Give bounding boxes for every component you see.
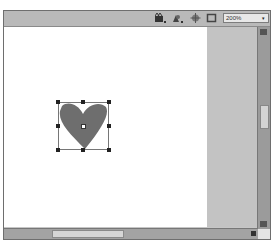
scroll-corner bbox=[258, 229, 270, 239]
zoom-dropdown[interactable]: 200% ▾ bbox=[223, 13, 269, 23]
vertical-scrollbar[interactable] bbox=[257, 27, 270, 229]
transform-handle[interactable] bbox=[107, 148, 111, 152]
edit-bar: 200% ▾ bbox=[4, 11, 270, 27]
horizontal-scroll-thumb[interactable] bbox=[52, 230, 124, 238]
transform-handle[interactable] bbox=[107, 124, 111, 128]
clip-stage-icon[interactable] bbox=[206, 13, 217, 23]
edit-symbols-icon[interactable] bbox=[172, 13, 183, 23]
stage[interactable] bbox=[4, 27, 207, 227]
center-stage-icon[interactable] bbox=[190, 13, 201, 23]
transform-point[interactable] bbox=[81, 124, 86, 129]
transform-handle[interactable] bbox=[107, 100, 111, 104]
transform-handle[interactable] bbox=[56, 100, 60, 104]
scroll-down-button[interactable] bbox=[260, 221, 267, 227]
transform-handle[interactable] bbox=[56, 124, 60, 128]
horizontal-scrollbar[interactable] bbox=[4, 228, 258, 239]
document-window: 200% ▾ bbox=[3, 10, 271, 240]
chevron-down-icon[interactable]: ▾ bbox=[260, 15, 267, 21]
transform-handle[interactable] bbox=[81, 148, 85, 152]
transform-handle[interactable] bbox=[81, 100, 85, 104]
heart-shape[interactable] bbox=[58, 102, 109, 150]
scroll-up-button[interactable] bbox=[260, 29, 267, 35]
zoom-value: 200% bbox=[226, 15, 241, 21]
scroll-right-button[interactable] bbox=[251, 231, 256, 236]
pasteboard[interactable] bbox=[4, 27, 258, 227]
transform-handle[interactable] bbox=[56, 148, 60, 152]
edit-scene-icon[interactable] bbox=[155, 13, 166, 23]
vertical-scroll-thumb[interactable] bbox=[260, 105, 269, 129]
